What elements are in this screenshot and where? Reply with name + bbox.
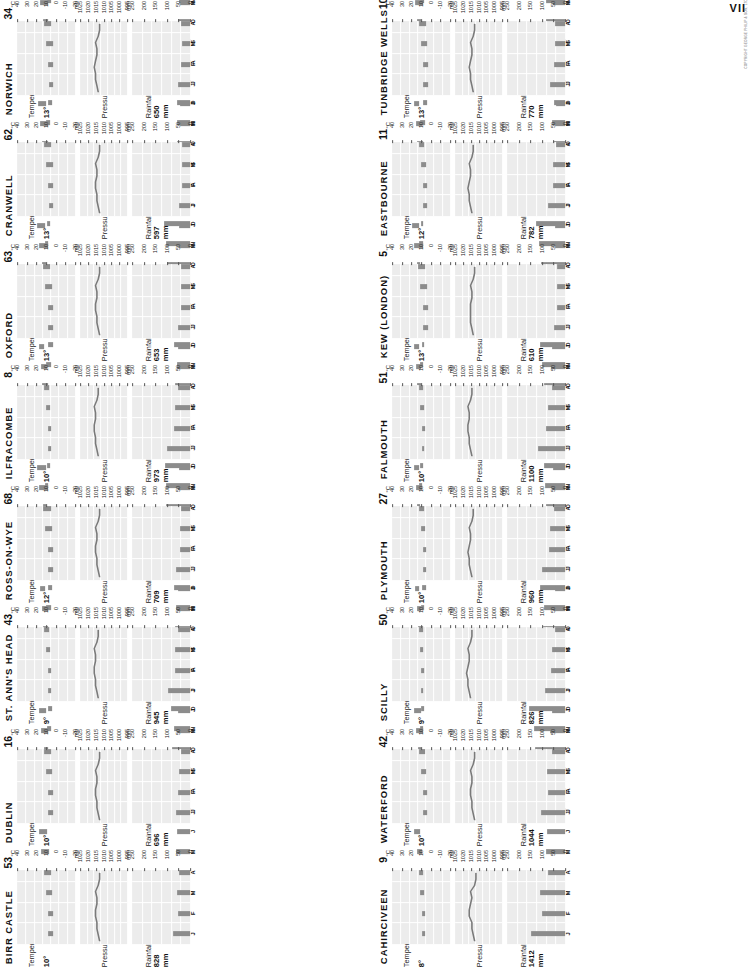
axis-tick-label: 50 bbox=[175, 122, 181, 128]
temperature-chart bbox=[392, 21, 450, 95]
axis-tick bbox=[486, 140, 487, 143]
rainfall-bar bbox=[178, 790, 190, 795]
annual-rainfall-value: 597 mm bbox=[152, 217, 170, 240]
axis-tick-label: 1025 bbox=[452, 122, 458, 134]
axis-tick bbox=[155, 747, 156, 750]
temperature-panel: Temperature12°°C403020100-10-20 bbox=[392, 121, 450, 242]
rainfall-chart: JFMAMJJASOND bbox=[132, 21, 190, 95]
axis-tick bbox=[486, 868, 487, 871]
axis-tick bbox=[167, 625, 168, 628]
axis-tick-label: 200 bbox=[141, 122, 147, 131]
temperature-range-bar bbox=[423, 547, 426, 552]
pressure-panel: Pressuremb102510201015101010051000995 bbox=[450, 606, 502, 727]
rainfall-bar bbox=[550, 83, 565, 88]
axis-tick-label: 1015 bbox=[468, 122, 474, 134]
axis-tick bbox=[111, 140, 112, 143]
axis-tick bbox=[565, 868, 566, 871]
pressure-panel: Pressuremb102510201015101010051000995 bbox=[75, 485, 127, 606]
axis-tick bbox=[392, 262, 393, 265]
axis-tick-label: 100 bbox=[539, 365, 545, 374]
grid-line-h bbox=[34, 385, 35, 459]
pressure-axis: mb102510201015101010051000995 bbox=[455, 0, 502, 21]
grid-line-h bbox=[171, 749, 172, 823]
axis-tick-label: 150 bbox=[527, 122, 533, 131]
axis-tick bbox=[440, 383, 441, 386]
axis-tick bbox=[421, 625, 422, 628]
temperature-chart bbox=[17, 385, 75, 459]
axis-tick-label: 250 bbox=[504, 607, 510, 616]
axis-tick bbox=[132, 504, 133, 507]
month-label: A bbox=[190, 143, 196, 147]
station-block: EASTBOURNE11Temperature12°°C403020100-10… bbox=[375, 121, 750, 242]
month-axis: JFMAMJJASOND bbox=[565, 506, 573, 580]
rainfall-chart: JFMAMJJASOND bbox=[132, 749, 190, 823]
grid-line-h bbox=[517, 142, 518, 216]
station-header: DUBLIN16 bbox=[0, 728, 17, 849]
grid-line-h bbox=[526, 627, 527, 701]
grid-line-h bbox=[409, 385, 410, 459]
axis-tick-label: 1025 bbox=[77, 365, 83, 377]
station-name: CRANWELL bbox=[3, 175, 14, 237]
mean-temperature-value: 9° bbox=[42, 717, 51, 724]
rainfall-bar bbox=[181, 305, 190, 310]
month-label: M bbox=[190, 648, 196, 653]
rainfall-axis: mm250200150100500 bbox=[132, 728, 190, 749]
grid-line-h bbox=[161, 264, 162, 338]
station-block: BIRR CASTLE53Temperature10°°C403020100-1… bbox=[0, 849, 375, 970]
axis-tick-label: 100 bbox=[164, 607, 170, 616]
rainfall-bar bbox=[557, 305, 565, 310]
station-header: KEW (LONDON)5 bbox=[375, 243, 392, 364]
axis-tick-label: 50 bbox=[550, 607, 556, 613]
axis-tick-label: 40 bbox=[389, 486, 395, 492]
axis-tick bbox=[46, 625, 47, 628]
axis-tick-label: 250 bbox=[504, 122, 510, 131]
axis-tick bbox=[431, 262, 432, 265]
axis-tick bbox=[36, 747, 37, 750]
axis-tick bbox=[471, 625, 472, 628]
axis-tick-label: 30 bbox=[24, 850, 30, 856]
axis-tick bbox=[144, 747, 145, 750]
month-label: M bbox=[190, 405, 196, 410]
axis-tick-label: 100 bbox=[164, 244, 170, 253]
axis-tick-label: 0 bbox=[428, 1, 434, 4]
month-axis: JFMAMJJASOND bbox=[190, 142, 198, 216]
temperature-range-bar bbox=[48, 810, 53, 815]
temperature-range-bar bbox=[48, 547, 54, 552]
station-number: 34 bbox=[2, 6, 14, 20]
axis-tick bbox=[421, 747, 422, 750]
axis-tick-label: 200 bbox=[516, 607, 522, 616]
axis-tick-label: 1005 bbox=[483, 607, 489, 619]
rainfall-bar bbox=[175, 648, 190, 653]
rainfall-bar bbox=[538, 446, 565, 451]
axis-tick-label: 250 bbox=[129, 486, 135, 495]
rainfall-bar bbox=[182, 183, 190, 188]
rainfall-panel: Rainfall709 mmJFMAMJJASONDmm250200150100… bbox=[127, 485, 190, 606]
rainfall-bar bbox=[555, 627, 565, 632]
axis-tick-label: 20 bbox=[408, 607, 414, 613]
axis-tick bbox=[455, 262, 456, 265]
axis-tick-label: 1025 bbox=[77, 607, 83, 619]
grid-line-h bbox=[171, 264, 172, 338]
rainfall-panel: Rainfall1412 mmJFMAMJJASONDmm25020015010… bbox=[502, 849, 565, 970]
pressure-axis: mb102510201015101010051000995 bbox=[80, 364, 127, 385]
axis-tick bbox=[155, 383, 156, 386]
axis-tick-label: 1005 bbox=[483, 729, 489, 741]
grid-line-h bbox=[517, 627, 518, 701]
axis-tick bbox=[471, 747, 472, 750]
axis-tick-label: 1015 bbox=[93, 1, 99, 13]
grid-line-h bbox=[409, 21, 410, 95]
grid-line-h bbox=[546, 21, 547, 95]
axis-tick bbox=[190, 747, 191, 750]
rainfall-bar bbox=[545, 689, 565, 694]
axis-tick bbox=[553, 383, 554, 386]
axis-tick bbox=[392, 747, 393, 750]
rainfall-chart: JFMAMJJASOND bbox=[132, 870, 190, 944]
station-name: ILFRACOMBE bbox=[3, 407, 14, 479]
axis-tick-label: 1000 bbox=[491, 850, 497, 862]
temperature-axis: °C403020100-10-20 bbox=[392, 728, 450, 749]
axis-tick-label: 1000 bbox=[491, 486, 497, 498]
axis-tick bbox=[440, 625, 441, 628]
axis-tick-label: 250 bbox=[504, 729, 510, 738]
station-number: 68 bbox=[2, 491, 14, 505]
axis-tick bbox=[144, 262, 145, 265]
